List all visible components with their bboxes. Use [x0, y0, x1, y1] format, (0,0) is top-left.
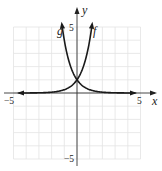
x-axis-label: x: [151, 94, 158, 108]
y-max-tick-label: 5: [69, 23, 74, 33]
x-max-tick-label: 5: [137, 96, 142, 106]
curve-f-label: f: [93, 24, 98, 38]
x-min-tick-label: −5: [4, 96, 14, 106]
curve-f: [19, 26, 92, 93]
g-right-arrow-icon: [130, 91, 137, 96]
exponential-graph: x y −5 5 5 −5 f g: [0, 0, 162, 171]
y-min-tick-label: −5: [64, 154, 74, 164]
f-left-arrow-icon: [17, 91, 24, 96]
curve-g: [62, 26, 135, 93]
y-axis-arrow-icon: [75, 7, 80, 14]
y-axis-label: y: [81, 3, 88, 17]
curve-g-label: g: [57, 24, 63, 38]
